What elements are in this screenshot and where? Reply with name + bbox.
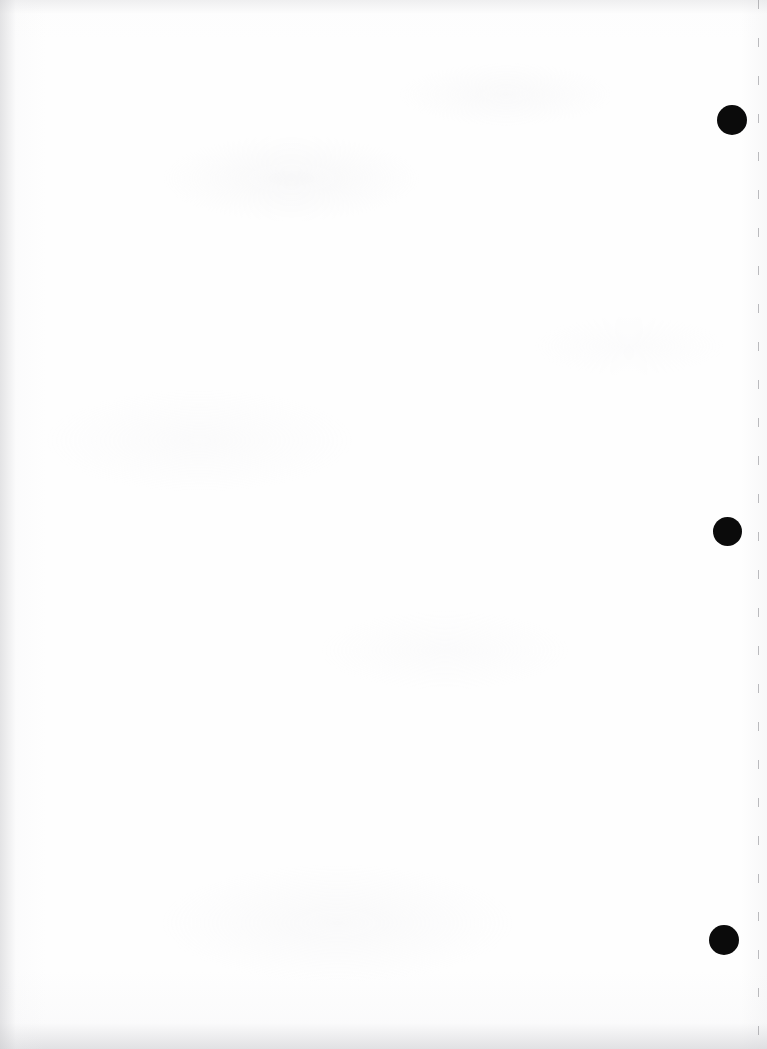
registration-dot-middle xyxy=(713,517,742,546)
registration-dot-top xyxy=(717,105,747,135)
registration-dot-bottom xyxy=(709,925,739,955)
scanned-page xyxy=(0,0,767,1049)
paper-background xyxy=(0,0,767,1049)
